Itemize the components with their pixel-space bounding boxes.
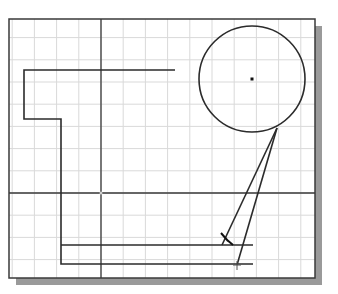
origin-marker-icon	[100, 192, 103, 195]
cad-drawing-canvas[interactable]	[0, 0, 338, 294]
circle-center-mark-icon	[251, 78, 254, 81]
drawing-area[interactable]	[0, 0, 338, 294]
